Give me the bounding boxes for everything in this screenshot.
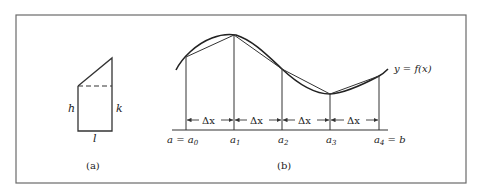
x-label-a4: a4 = b — [374, 134, 406, 147]
delta-x-label-4: Δx — [347, 115, 360, 126]
label-l: l — [93, 132, 97, 145]
caption-b: (b) — [277, 160, 291, 171]
label-k: k — [116, 102, 123, 115]
x-label-a0: a = a0 — [167, 134, 199, 147]
label-h: h — [68, 102, 75, 115]
x-label-a2: a2 — [278, 134, 289, 147]
figure-canvas: h k l (a) — [0, 0, 481, 193]
delta-x-label-1: Δx — [202, 115, 215, 126]
x-label-a1: a1 — [230, 134, 240, 147]
caption-a: (a) — [86, 160, 100, 171]
trapezoid-shape — [78, 58, 112, 131]
x-label-a3: a3 — [326, 134, 337, 147]
delta-x-label-2: Δx — [250, 115, 263, 126]
panel-a: h k l (a) — [68, 58, 123, 171]
delta-x-label-3: Δx — [298, 115, 311, 126]
panel-b: Δx Δx Δx Δx a = a0 a1 a2 a3 a4 = b y = f… — [167, 34, 432, 171]
curve-label: y = f(x) — [393, 63, 432, 74]
